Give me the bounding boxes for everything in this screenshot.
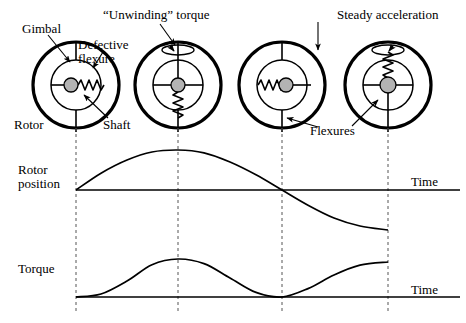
shaft-hub-2 [171, 78, 185, 92]
unwinding-torque-label: “Unwinding” torque [103, 8, 210, 22]
rotor-position-axis-label-line1: Rotor [18, 163, 48, 177]
gyro-4 [345, 42, 431, 132]
shaft-label: Shaft [103, 118, 130, 132]
defective-flexure-label-line1: Defective [78, 38, 129, 52]
shaft-hub-4 [380, 77, 396, 93]
gimbal-label: Gimbal [22, 22, 61, 36]
torque-axis-label: Torque [18, 262, 55, 276]
torque-curve [76, 259, 388, 297]
shaft-hub-3 [279, 78, 293, 92]
steady-acceleration-label: Steady acceleration [337, 8, 438, 22]
spin-arrow-2 [170, 46, 174, 51]
rotor-label: Rotor [14, 118, 44, 132]
gyro-3 [239, 42, 325, 132]
flexures-label: Flexures [310, 124, 355, 138]
diagram-vector-layer [0, 0, 466, 323]
rotor-position-axis-label-line2: position [18, 177, 60, 191]
time-label-top: Time [411, 175, 438, 189]
torque-panel [76, 259, 460, 297]
spin-arrow-4 [389, 46, 393, 51]
shaft-hub-1 [64, 78, 78, 92]
flexure-spring-4 [383, 52, 393, 78]
spin-arc-4 [372, 45, 404, 55]
figure-canvas: Gimbal Defective flexure “Unwinding” tor… [0, 0, 466, 323]
time-label-bottom: Time [411, 283, 438, 297]
gyro-2 [135, 42, 221, 132]
defective-flexure-label-line2: flexure [78, 52, 115, 66]
rotor-position-panel [76, 150, 460, 230]
